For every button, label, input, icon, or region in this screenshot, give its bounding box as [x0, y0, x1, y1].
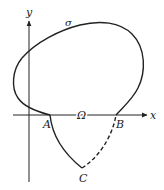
arc-a-to-c [50, 115, 82, 168]
region-omega-label: Ω [76, 109, 86, 122]
point-b-label: B [115, 118, 124, 131]
sigma-upper-arc [13, 22, 143, 115]
x-axis-label: x [150, 109, 157, 122]
arc-c-to-b [82, 115, 116, 168]
point-a-label: A [42, 118, 51, 131]
sigma-label: σ [65, 17, 73, 28]
diagram-canvas: y x σ A Ω B C [0, 0, 164, 190]
y-axis-label: y [25, 6, 33, 19]
point-c-label: C [79, 172, 88, 185]
